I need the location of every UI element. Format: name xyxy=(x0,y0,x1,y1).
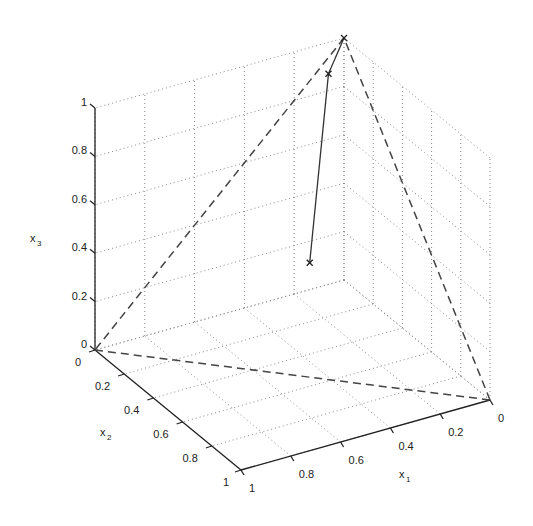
x3-tick-label: 0.8 xyxy=(72,144,87,156)
x3-tick-label: 0.2 xyxy=(72,290,87,302)
svg-text:3: 3 xyxy=(37,239,42,248)
svg-text:x: x xyxy=(100,426,106,438)
axis-label-x3: x 3 xyxy=(30,232,42,248)
x2-tick-label: 0.8 xyxy=(183,452,198,464)
x1-tick xyxy=(390,428,393,433)
axis-label-x2: x 2 xyxy=(100,426,112,442)
x2-tick xyxy=(118,374,124,376)
x3-tick xyxy=(90,201,95,205)
x2-axis xyxy=(95,350,241,470)
grid-line-wall xyxy=(95,86,344,156)
x2-tick xyxy=(206,446,212,448)
grid-line-wall xyxy=(95,280,344,350)
x3-tick xyxy=(90,152,95,156)
x1-tick xyxy=(440,414,443,419)
grid-line-floor xyxy=(195,322,341,442)
x3-tick xyxy=(90,298,95,302)
grid-line-floor xyxy=(244,308,390,428)
grid-line-floor xyxy=(294,294,440,414)
x1-tick xyxy=(341,442,344,447)
x2-tick-label: 0.6 xyxy=(153,428,168,440)
x3-tick xyxy=(90,249,95,253)
data-series xyxy=(95,35,490,400)
x2-tick-label: 0.2 xyxy=(95,380,110,392)
axis-label-x1: x 1 xyxy=(399,468,411,484)
svg-text:1: 1 xyxy=(406,475,411,484)
x1-tick-label: 0.6 xyxy=(349,454,364,466)
grid-line-wall xyxy=(344,280,490,400)
x2-tick xyxy=(235,470,241,472)
grid-line-floor xyxy=(124,304,373,374)
x3-tick-label: 0.6 xyxy=(72,193,87,205)
x1-tick-label: 0 xyxy=(498,412,504,424)
x1-tick xyxy=(241,470,244,475)
x2-tick xyxy=(89,350,95,352)
x1-tick-label: 0.2 xyxy=(448,426,463,438)
grid-line-floor xyxy=(153,328,402,398)
grid-line-wall xyxy=(344,135,490,255)
simplex-segment xyxy=(95,350,490,400)
x1-tick xyxy=(490,400,493,405)
svg-text:x: x xyxy=(399,468,405,480)
x2-tick xyxy=(177,422,183,424)
grid-line-floor xyxy=(183,352,432,422)
x3-tick xyxy=(90,104,95,108)
x1-tick-label: 1 xyxy=(249,482,255,494)
x1-tick xyxy=(291,456,294,461)
trajectory-segment xyxy=(310,74,329,263)
chart-3d-plot: 0000.20.20.20.40.40.40.60.60.60.80.80.81… xyxy=(0,0,533,526)
grid-line-wall xyxy=(344,232,490,352)
x2-tick-label: 0.4 xyxy=(124,404,139,416)
x2-tick xyxy=(147,398,153,400)
simplex-segment xyxy=(95,38,344,350)
tick-labels: 0000.20.20.20.40.40.40.60.60.60.80.80.81… xyxy=(72,96,504,494)
x3-tick-label: 1 xyxy=(81,96,87,108)
x2-tick-label: 0 xyxy=(75,356,81,368)
axes xyxy=(89,104,493,475)
x1-tick-label: 0.4 xyxy=(398,440,413,452)
grid-line-wall xyxy=(344,38,490,158)
x3-tick xyxy=(90,346,95,350)
svg-text:2: 2 xyxy=(107,433,112,442)
grid-line-floor xyxy=(212,376,461,446)
x3-tick-label: 0.4 xyxy=(72,241,87,253)
grid-line-wall xyxy=(95,232,344,302)
x1-tick-label: 0.8 xyxy=(299,468,314,480)
x3-tick-label: 0 xyxy=(81,338,87,350)
x2-tick-label: 1 xyxy=(223,476,229,488)
grid-line-wall xyxy=(344,183,490,303)
grid-line-wall xyxy=(95,38,344,108)
simplex-segment xyxy=(344,38,490,400)
trajectory-segment xyxy=(328,38,344,74)
grid-line-wall xyxy=(344,86,490,206)
svg-text:x: x xyxy=(30,232,36,244)
